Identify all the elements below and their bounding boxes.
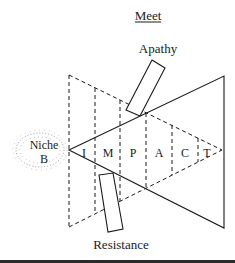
impact-letter-p: P xyxy=(130,146,137,160)
title-meet: Meet xyxy=(135,8,162,23)
impact-letters: I M P A C T xyxy=(82,146,211,160)
label-apathy: Apathy xyxy=(139,41,178,56)
impact-letter-m: M xyxy=(103,146,114,160)
impact-letter-a: A xyxy=(155,146,164,160)
apathy-force-box xyxy=(126,60,165,116)
impact-diagram: Meet Apathy Niche B I M P A C T Resistan… xyxy=(0,0,235,263)
label-niche: Niche xyxy=(30,138,59,152)
impact-letter-i: I xyxy=(82,146,86,160)
impact-letter-c: C xyxy=(181,146,189,160)
impact-letter-t: T xyxy=(203,146,211,160)
resistance-force-box xyxy=(99,173,123,232)
label-resistance: Resistance xyxy=(93,237,149,252)
label-niche-b: B xyxy=(40,152,48,166)
